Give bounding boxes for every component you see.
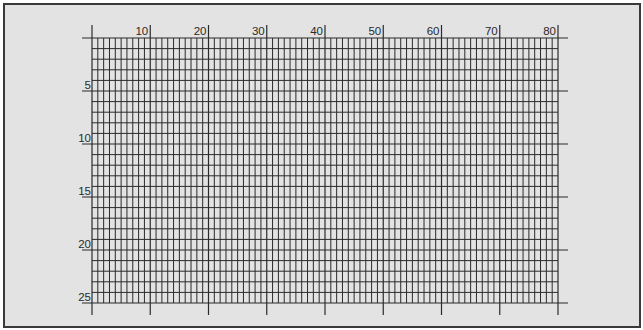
- row-label: 25: [78, 291, 91, 303]
- grid-lines: [82, 25, 568, 315]
- row-label: 20: [78, 238, 91, 250]
- grid-sheet: 1020304050607080 510152025: [0, 0, 643, 330]
- column-label: 60: [427, 25, 440, 37]
- column-label: 70: [485, 25, 498, 37]
- column-label: 30: [252, 25, 265, 37]
- column-label: 10: [135, 25, 148, 37]
- row-label: 15: [78, 185, 91, 197]
- column-label: 20: [194, 25, 207, 37]
- column-label: 50: [368, 25, 381, 37]
- column-label: 80: [543, 25, 556, 37]
- row-label: 5: [85, 79, 91, 91]
- row-labels: 510152025: [78, 79, 91, 303]
- column-label: 40: [310, 25, 323, 37]
- column-labels: 1020304050607080: [135, 25, 556, 37]
- row-label: 10: [78, 132, 91, 144]
